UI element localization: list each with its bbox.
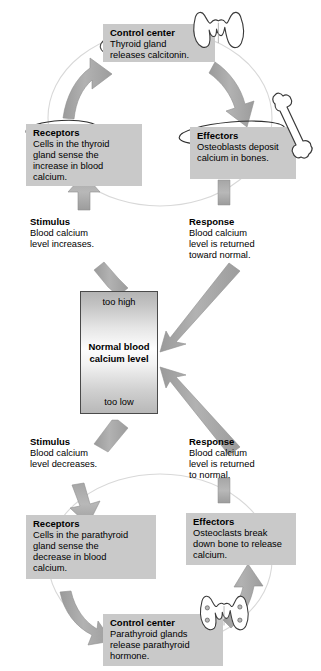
stimulus-caption-upper: Stimulus Blood calcium level increases. bbox=[30, 216, 140, 250]
stimulus-caption-lower: Stimulus Blood calcium level decreases. bbox=[30, 436, 145, 470]
control-center-header-lower: Control center bbox=[110, 617, 218, 629]
control-center-body-upper: Thyroid gland releases calcitonin. bbox=[110, 39, 210, 62]
response-header-upper: Response bbox=[189, 216, 309, 228]
arrow-response-to-center-upper bbox=[160, 263, 240, 352]
control-center-body-lower: Parathyroid glands release parathyroid h… bbox=[110, 629, 218, 663]
normal-calcium-level-box[interactable]: too high Normal blood calcium level too … bbox=[80, 291, 158, 414]
stimulus-header-upper: Stimulus bbox=[30, 216, 140, 228]
control-center-header-upper: Control center bbox=[110, 27, 210, 39]
feedback-diagram: Control center Thyroid gland releases ca… bbox=[0, 0, 321, 671]
stimulus-header-lower: Stimulus bbox=[30, 436, 145, 448]
response-header-lower: Response bbox=[189, 436, 309, 448]
control-center-box-lower[interactable]: Control center Parathyroid glands releas… bbox=[103, 614, 223, 666]
too-high-label: too high bbox=[102, 297, 135, 308]
response-body-lower: Blood calcium level is returned to norma… bbox=[189, 448, 309, 482]
too-low-label: too low bbox=[104, 397, 133, 408]
receptors-body-lower: Cells in the parathyroid gland sense the… bbox=[33, 530, 151, 575]
arrow-response-down-upper bbox=[218, 180, 230, 205]
receptors-box-upper[interactable]: Receptors Cells in the thyroid gland sen… bbox=[26, 124, 142, 186]
stimulus-body-upper: Blood calcium level increases. bbox=[30, 228, 140, 251]
response-caption-upper: Response Blood calcium level is returned… bbox=[189, 216, 309, 261]
effectors-box-lower[interactable]: Effectors Osteoclasts break down bone to… bbox=[186, 513, 296, 565]
arrow-response-up-lower bbox=[218, 478, 230, 503]
receptors-header-upper: Receptors bbox=[33, 127, 137, 139]
normal-level-label: Normal blood calcium level bbox=[81, 341, 157, 364]
stimulus-body-lower: Blood calcium level decreases. bbox=[30, 448, 145, 471]
effectors-header-lower: Effectors bbox=[193, 516, 291, 528]
arrow-receptors-to-control-upper bbox=[63, 58, 112, 119]
arrow-control-to-effectors-lower bbox=[223, 564, 263, 628]
effectors-box-upper[interactable]: Effectors Osteoblasts deposit calcium in… bbox=[190, 127, 296, 179]
receptors-box-lower[interactable]: Receptors Cells in the parathyroid gland… bbox=[26, 515, 156, 579]
arrow-control-to-effectors-upper bbox=[209, 62, 254, 127]
response-caption-lower: Response Blood calcium level is returned… bbox=[189, 436, 309, 481]
effectors-body-upper: Osteoblasts deposit calcium in bones. bbox=[197, 142, 291, 165]
receptors-body-upper: Cells in the thyroid gland sense the inc… bbox=[33, 139, 137, 184]
control-center-box-upper[interactable]: Control center Thyroid gland releases ca… bbox=[103, 24, 215, 62]
response-body-upper: Blood calcium level is returned toward n… bbox=[189, 228, 309, 262]
receptors-header-lower: Receptors bbox=[33, 518, 151, 530]
effectors-body-lower: Osteoclasts break down bone to release c… bbox=[193, 528, 291, 562]
effectors-header-upper: Effectors bbox=[197, 130, 291, 142]
